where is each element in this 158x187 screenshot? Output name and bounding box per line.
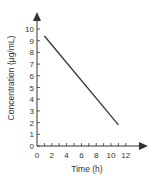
x-tick-label: 12 <box>121 151 130 160</box>
y-tick-label: 6 <box>30 72 35 81</box>
y-tick-label: 7 <box>30 60 35 69</box>
x-tick-label: 6 <box>79 151 84 160</box>
y-tick-label: 2 <box>30 119 35 128</box>
y-tick-label: 8 <box>30 48 35 57</box>
y-tick-label: 0 <box>30 142 35 151</box>
data-line <box>44 36 118 125</box>
y-tick-label: 10 <box>25 25 34 34</box>
y-tick-label: 4 <box>30 95 35 104</box>
y-tick-label: 9 <box>30 37 35 46</box>
y-tick-label: 1 <box>30 130 35 139</box>
x-tick-label: 10 <box>107 151 116 160</box>
x-axis-label: Time (h) <box>71 164 102 174</box>
y-axis-arrow-icon <box>33 12 41 21</box>
x-tick-label: 2 <box>50 151 55 160</box>
y-tick-label: 3 <box>30 107 35 116</box>
x-tick-label: 4 <box>64 151 69 160</box>
x-tick-label: 8 <box>94 151 99 160</box>
x-axis-arrow-icon <box>139 142 148 150</box>
y-axis-ticks: 012345678910 <box>25 25 40 151</box>
y-axis-label: Concentration (µg/mL) <box>6 35 16 120</box>
y-tick-label: 5 <box>30 84 35 93</box>
x-tick-label: 0 <box>35 151 40 160</box>
chart: 012345678910 024681012 Time (h) Concentr… <box>0 0 158 187</box>
